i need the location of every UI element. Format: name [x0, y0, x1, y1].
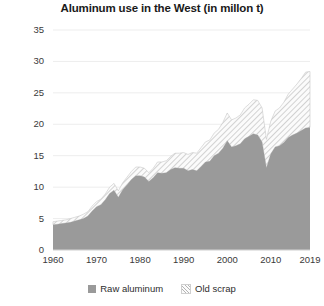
x-tick-label: 1970	[77, 254, 117, 265]
x-tick-label: 1980	[120, 254, 160, 265]
y-tick-label: 30	[20, 56, 44, 66]
y-tick-label: 20	[20, 119, 44, 129]
x-tick-label: 2010	[251, 254, 291, 265]
x-tick-label: 1960	[33, 254, 73, 265]
y-tick-label: 35	[20, 25, 44, 35]
y-tick-label: 5	[20, 214, 44, 224]
legend-label-raw-aluminum: Raw aluminum	[100, 283, 163, 294]
legend-swatch-hatch-icon	[181, 284, 191, 294]
legend-swatch-solid-icon	[88, 285, 96, 293]
y-tick-label: 15	[20, 151, 44, 161]
legend-item-raw-aluminum[interactable]: Raw aluminum	[88, 283, 163, 294]
chart-legend: Raw aluminum Old scrap	[0, 283, 324, 294]
x-axis-ticks: 1960197019801990200020102019	[0, 252, 324, 270]
series-layer	[53, 71, 310, 250]
y-tick-label: 10	[20, 182, 44, 192]
legend-label-old-scrap: Old scrap	[195, 283, 236, 294]
x-tick-label: 2000	[207, 254, 247, 265]
y-tick-label: 25	[20, 88, 44, 98]
aluminum-use-area-chart: Aluminum use in the West (in millon t) 0…	[0, 0, 324, 306]
x-tick-label: 1990	[164, 254, 204, 265]
x-tick-label: 2019	[290, 254, 324, 265]
legend-item-old-scrap[interactable]: Old scrap	[181, 283, 236, 294]
